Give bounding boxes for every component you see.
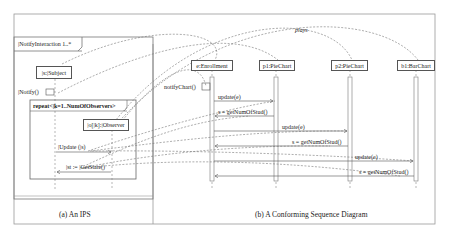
subject-lifeline-head: |s:|Subject [36,66,72,79]
message-label: s = getNumOfStud() [292,139,341,145]
lifeline-head-p1: p1:PieChart [259,60,295,71]
lifeline-label: p1:PieChart [263,63,292,69]
getstate-message-label: |st := |GetState() [66,164,105,170]
update-message-label: |Update (|s) [58,144,86,150]
lifeline-label: p2:PieChart [335,63,364,69]
lifeline-label: e:Enrollment [196,63,227,69]
lifeline-head-b1: b1:BarChart [397,60,435,71]
message-label: update(e) [282,124,305,130]
ips-frame-label: |NotifyInteraction 1..* [18,41,71,47]
lifeline-head-p2: p2:PieChart [331,60,368,71]
message-label: update(e) [218,94,241,100]
diagram-graphics [0,0,449,235]
ips-caption: (a) An IPS [59,210,91,219]
loop-label: repeat<|k=1..NumOfObservers> [33,103,116,109]
self-message-label: notifyChart() [164,84,196,90]
lifeline-head-enrollment: e:Enrollment [191,60,233,71]
message-label: s = getNumOfStud() [359,169,408,175]
sequence-caption: (b) A Conforming Sequence Diagram [255,210,367,219]
subject-lifeline-label: |s:|Subject [42,70,66,76]
observer-lifeline-head: |o[|k]:|Observer [83,119,129,131]
observer-lifeline-label: |o[|k]:|Observer [87,122,124,128]
plays-label: plays [295,27,308,33]
message-label: s = getNumOfStud() [218,109,267,115]
lifeline-label: b1:BarChart [401,63,431,69]
notify-message-label: |Notify() [18,89,39,95]
message-label: update(e) [355,154,378,160]
